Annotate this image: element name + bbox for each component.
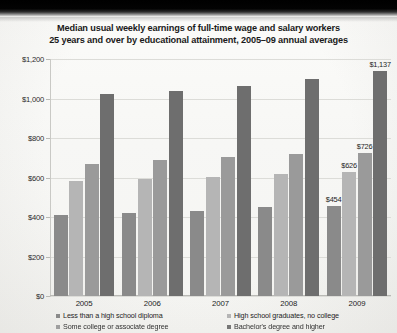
bar-value-label: $726 bbox=[357, 142, 373, 151]
scan-dark-band bbox=[0, 0, 397, 17]
legend-swatch-icon bbox=[227, 325, 231, 329]
y-axis-tick-label: $400 bbox=[28, 213, 44, 222]
y-axis-tick-label: $1,000 bbox=[22, 95, 44, 104]
y-axis-tick-label: $600 bbox=[28, 174, 44, 183]
bar[interactable]: $626 bbox=[342, 172, 356, 296]
plot-area: $454$626$726$1,137 bbox=[50, 59, 391, 296]
legend-swatch-icon bbox=[56, 325, 60, 329]
chart-title-line-1: Median usual weekly earnings of full-tim… bbox=[57, 23, 340, 33]
bar-value-label: $626 bbox=[341, 161, 357, 170]
bar[interactable] bbox=[153, 160, 167, 296]
legend-item[interactable]: Bachelor's degree and higher bbox=[227, 321, 394, 332]
y-axis-tick-label: $0 bbox=[36, 292, 44, 301]
bar[interactable] bbox=[100, 94, 114, 296]
bar[interactable] bbox=[221, 157, 235, 296]
y-axis-tick-label: $800 bbox=[28, 134, 44, 143]
bar[interactable] bbox=[274, 174, 288, 296]
legend-swatch-icon bbox=[227, 314, 231, 318]
bar[interactable] bbox=[237, 86, 251, 296]
bar[interactable] bbox=[138, 179, 152, 297]
bar[interactable] bbox=[258, 207, 272, 296]
bar[interactable] bbox=[206, 177, 220, 296]
legend-item-label: Bachelor's degree and higher bbox=[234, 322, 325, 331]
chart-title: Median usual weekly earnings of full-tim… bbox=[0, 22, 397, 47]
bar[interactable] bbox=[54, 215, 68, 296]
chart-title-line-2: 25 years and over by educational attainm… bbox=[0, 34, 397, 46]
bar[interactable] bbox=[289, 154, 303, 296]
bar-group-2005 bbox=[50, 59, 118, 296]
legend-item[interactable]: Less than a high school diploma bbox=[56, 310, 223, 321]
legend-item-label: Less than a high school diploma bbox=[63, 311, 163, 320]
bar-group-2009: $454$626$726$1,137 bbox=[323, 59, 391, 296]
bar-groups: $454$626$726$1,137 bbox=[50, 59, 391, 296]
chart-page: Median usual weekly earnings of full-tim… bbox=[0, 0, 397, 333]
bar-group-2008 bbox=[255, 59, 323, 296]
gridline bbox=[50, 296, 391, 297]
bar-value-label: $454 bbox=[326, 195, 342, 204]
bar[interactable]: $1,137 bbox=[373, 71, 387, 296]
bar[interactable] bbox=[305, 79, 319, 296]
bar[interactable] bbox=[190, 211, 204, 296]
y-axis-tick-label: $1,200 bbox=[22, 55, 44, 64]
chart-legend: Less than a high school diplomaHigh scho… bbox=[56, 310, 394, 333]
y-axis-tick-label: $200 bbox=[28, 253, 44, 262]
bar[interactable]: $454 bbox=[327, 206, 341, 296]
bar[interactable]: $726 bbox=[358, 153, 372, 296]
legend-item-label: Some college or associate degree bbox=[63, 322, 168, 331]
bar[interactable] bbox=[85, 164, 99, 296]
bar-value-label: $1,137 bbox=[369, 60, 390, 69]
bar[interactable] bbox=[69, 181, 83, 296]
legend-swatch-icon bbox=[56, 314, 60, 318]
bar-group-2007 bbox=[186, 59, 254, 296]
bar[interactable] bbox=[169, 91, 183, 296]
legend-item[interactable]: High school graduates, no college bbox=[227, 310, 394, 321]
bar[interactable] bbox=[122, 213, 136, 296]
legend-item-label: High school graduates, no college bbox=[234, 311, 339, 320]
legend-item[interactable]: Some college or associate degree bbox=[56, 321, 223, 332]
bar-group-2006 bbox=[118, 59, 186, 296]
